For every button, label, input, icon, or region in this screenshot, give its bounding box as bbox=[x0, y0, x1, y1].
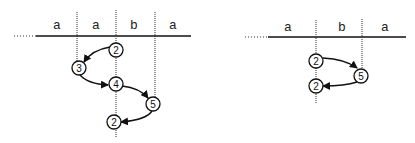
state-node: 4 bbox=[109, 77, 123, 91]
svg-text:5: 5 bbox=[358, 71, 364, 82]
transition-arrow bbox=[323, 82, 357, 86]
tape-cell-label: a bbox=[381, 20, 389, 35]
transition-arrow bbox=[80, 75, 108, 85]
state-node: 2 bbox=[309, 54, 323, 68]
state-node: 2 bbox=[109, 43, 123, 57]
svg-text:2: 2 bbox=[113, 45, 119, 56]
tape-cell-label: a bbox=[92, 18, 100, 33]
svg-text:2: 2 bbox=[313, 81, 319, 92]
tape-cell-label: a bbox=[53, 18, 61, 33]
svg-text:4: 4 bbox=[113, 79, 119, 90]
tape-cell-label: b bbox=[338, 20, 346, 35]
svg-text:2: 2 bbox=[313, 56, 319, 67]
diagram-canvas: a a b a 2 3 4 5 2 bbox=[0, 0, 415, 143]
transition-arrow bbox=[122, 86, 148, 98]
svg-text:2: 2 bbox=[111, 117, 117, 128]
state-node: 3 bbox=[72, 61, 86, 75]
state-node: 2 bbox=[107, 115, 121, 129]
transition-arrow bbox=[121, 111, 152, 122]
svg-text:5: 5 bbox=[150, 99, 156, 110]
tape-cell-label: a bbox=[284, 20, 292, 35]
svg-text:3: 3 bbox=[76, 63, 82, 74]
right-diagram: a b a 2 5 2 bbox=[245, 19, 406, 104]
transition-arrow bbox=[84, 47, 110, 62]
left-diagram: a a b a 2 3 4 5 2 bbox=[14, 10, 191, 138]
tape-cell-label: b bbox=[130, 18, 138, 33]
tape-cell-label: a bbox=[169, 18, 177, 33]
state-node: 5 bbox=[146, 97, 160, 111]
state-node: 5 bbox=[354, 69, 368, 83]
transition-arrow bbox=[323, 58, 357, 68]
state-node: 2 bbox=[309, 79, 323, 93]
